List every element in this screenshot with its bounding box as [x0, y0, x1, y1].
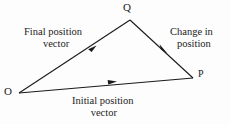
final-position-vector-label-line2: vector	[24, 38, 82, 50]
final-position-vector-label: Final position vector	[24, 26, 82, 51]
final-position-vector-label-line1: Final position	[24, 26, 82, 38]
vertex-label-p: P	[198, 69, 204, 79]
vertex-label-o: O	[4, 86, 12, 97]
vector-diagram: Final position vector Change in position…	[0, 0, 230, 124]
initial-position-vector-label-line1: Initial position	[72, 95, 134, 107]
change-in-position-vector-label-line2: position	[170, 38, 213, 50]
arrowhead-initial-position-vector	[108, 80, 117, 85]
initial-position-vector-label: Initial position vector	[72, 95, 134, 120]
change-in-position-vector-label: Change in position	[170, 26, 213, 51]
initial-position-vector-label-line2: vector	[72, 107, 134, 119]
edge-o-to-p	[19, 78, 193, 93]
vertex-label-q: Q	[123, 2, 131, 13]
change-in-position-vector-label-line1: Change in	[170, 26, 213, 38]
